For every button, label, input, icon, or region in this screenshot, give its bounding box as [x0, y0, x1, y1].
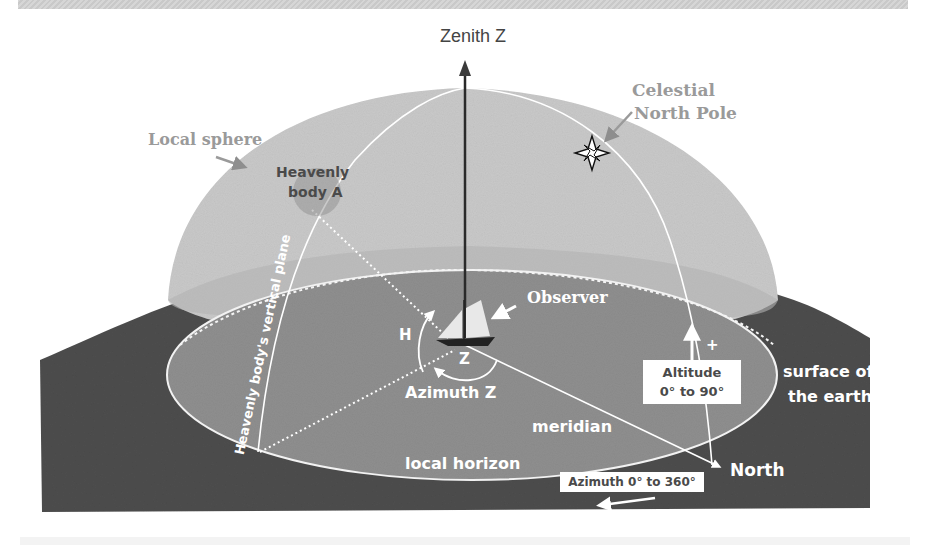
observer-label: Observer — [527, 288, 608, 307]
zenith-label: Zenith Z — [440, 26, 506, 47]
azimuth-range-box: Azimuth 0° to 360° — [560, 472, 704, 492]
altitude-range-box: Altitude 0° to 90° — [643, 360, 741, 404]
altitude-label-line1: Altitude — [643, 363, 741, 382]
celestial-pole-label-line2: North Pole — [634, 103, 737, 123]
altitude-label-line2: 0° to 90° — [643, 382, 741, 401]
surface-label-line2: the earth — [788, 387, 872, 406]
azimuth-z-label: Azimuth Z — [405, 383, 496, 402]
z-angle-label: Z — [459, 350, 470, 368]
bottom-decorative-band — [20, 537, 910, 545]
heavenly-body-label-line1: Heavenly — [276, 164, 349, 180]
h-angle-label: H — [399, 326, 412, 344]
altitude-plus-label: + — [706, 336, 719, 354]
heavenly-body-label-line2: body A — [288, 184, 343, 200]
celestial-pole-label-line1: Celestial — [632, 80, 715, 100]
local-sphere-label: Local sphere — [148, 130, 262, 149]
surface-label-line1: surface of — [783, 362, 873, 381]
meridian-label: meridian — [532, 417, 612, 436]
local-horizon-label: local horizon — [405, 454, 520, 473]
north-label: North — [730, 460, 785, 480]
